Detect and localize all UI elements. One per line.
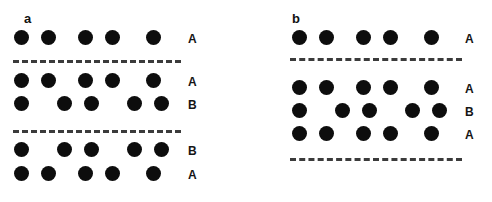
row-label-A: A bbox=[465, 83, 474, 95]
dot-row: B bbox=[0, 103, 492, 123]
dashed-separator-line bbox=[290, 158, 462, 161]
dot-marker bbox=[356, 126, 371, 141]
dot-marker bbox=[292, 30, 307, 45]
dot-marker bbox=[319, 126, 334, 141]
row-label-A: A bbox=[465, 129, 474, 141]
panel-letter-b: b bbox=[292, 12, 300, 25]
panel-b: bAABA bbox=[0, 0, 492, 202]
dot-marker bbox=[356, 80, 371, 95]
dot-marker bbox=[405, 103, 420, 118]
figure-canvas: aAABBAbAABA bbox=[0, 0, 492, 202]
dot-row: A bbox=[0, 30, 492, 50]
dot-marker bbox=[424, 80, 439, 95]
dot-marker bbox=[383, 126, 398, 141]
row-label-B: B bbox=[465, 106, 474, 118]
dot-row: A bbox=[0, 126, 492, 146]
dot-marker bbox=[432, 103, 447, 118]
dot-marker bbox=[424, 126, 439, 141]
row-label-A: A bbox=[465, 33, 474, 45]
dot-row: A bbox=[0, 80, 492, 100]
dot-marker bbox=[292, 103, 307, 118]
dashed-separator-line bbox=[290, 58, 462, 61]
dot-marker bbox=[292, 126, 307, 141]
dot-marker bbox=[362, 103, 377, 118]
dot-marker bbox=[335, 103, 350, 118]
dot-marker bbox=[319, 30, 334, 45]
dot-marker bbox=[356, 30, 371, 45]
dot-marker bbox=[383, 30, 398, 45]
dot-marker bbox=[319, 80, 334, 95]
dot-marker bbox=[383, 80, 398, 95]
dot-marker bbox=[292, 80, 307, 95]
dot-marker bbox=[424, 30, 439, 45]
